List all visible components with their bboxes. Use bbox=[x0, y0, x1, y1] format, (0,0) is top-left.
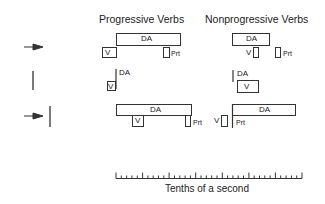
header-nonprogressive: Nonprogressive Verbs bbox=[205, 14, 308, 25]
time-ruler bbox=[116, 173, 302, 179]
nonprog-r2-v-label: V bbox=[244, 83, 249, 91]
header-progressive: Progressive Verbs bbox=[99, 14, 184, 25]
nonprog-r1-v-label: V bbox=[246, 49, 251, 57]
prog-r2-v-label: V bbox=[108, 83, 113, 91]
nonprog-r1-prt-box bbox=[276, 48, 281, 58]
nonprog-r1-v-box bbox=[254, 48, 259, 58]
nonprog-r2-da-label: DA bbox=[237, 70, 248, 78]
timing-diagram bbox=[0, 0, 325, 204]
nonprog-r3-prt-label: Prt bbox=[236, 119, 245, 126]
nonprog-r3-da-label: DA bbox=[259, 106, 270, 114]
row-1-arrow-icon bbox=[24, 44, 43, 50]
prog-r3-prt-box bbox=[186, 116, 191, 127]
prog-r1-da-label: DA bbox=[141, 35, 152, 43]
prog-r1-prt-label: Prt bbox=[171, 50, 180, 57]
prog-r3-v-label: V bbox=[135, 117, 140, 125]
nonprog-r3-v-label: V bbox=[214, 117, 219, 125]
prog-r2-da-label: DA bbox=[119, 69, 130, 77]
nonprog-r3-v-box bbox=[222, 116, 228, 127]
axis-label: Tenths of a second bbox=[165, 184, 249, 194]
prog-r1-v-label: V bbox=[105, 49, 110, 57]
nonprog-r1-da-label: DA bbox=[246, 35, 257, 43]
nonprog-r1-prt-label: Prt bbox=[283, 50, 292, 57]
prog-r3-prt-label: Prt bbox=[193, 119, 202, 126]
prog-r3-da-label: DA bbox=[150, 106, 161, 114]
row-3-arrow-bar-icon bbox=[24, 106, 50, 127]
prog-r1-prt-box bbox=[164, 48, 170, 58]
